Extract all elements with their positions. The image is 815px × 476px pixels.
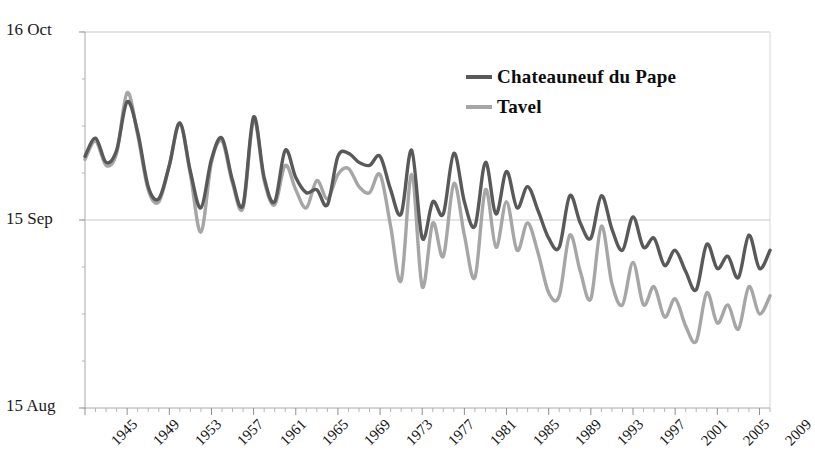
legend-label-tavel: Tavel xyxy=(497,96,542,118)
chart-legend: Chateauneuf du Pape Tavel xyxy=(466,62,676,122)
legend-label-chateauneuf: Chateauneuf du Pape xyxy=(497,66,676,88)
legend-item-tavel: Tavel xyxy=(466,92,676,122)
legend-swatch-chateauneuf xyxy=(466,75,492,79)
legend-swatch-tavel xyxy=(466,105,492,109)
legend-item-chateauneuf: Chateauneuf du Pape xyxy=(466,62,676,92)
x-tick-label-2009: 2009 xyxy=(782,416,815,449)
